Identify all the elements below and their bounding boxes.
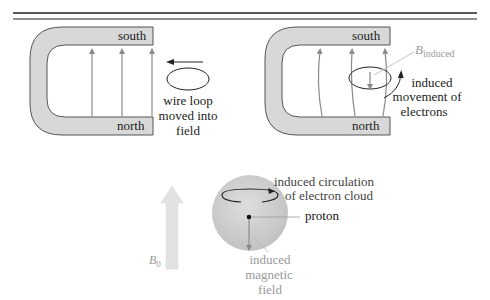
svg-text:of electron cloud: of electron cloud — [285, 188, 374, 203]
pole-north-right: north — [352, 118, 380, 133]
pole-south-left: south — [118, 28, 147, 43]
top-rule — [13, 13, 477, 19]
svg-text:field: field — [176, 123, 200, 138]
svg-text:induced: induced — [249, 252, 291, 267]
wire-loop — [167, 68, 209, 90]
b-induced-leader — [374, 52, 414, 75]
svg-text:electrons: electrons — [401, 104, 448, 119]
svg-text:field: field — [258, 282, 282, 297]
b-induced-label: Binduced — [415, 42, 455, 59]
diagram-canvas: south north wire loop moved into field s… — [0, 0, 490, 300]
pole-south-right: south — [352, 28, 381, 43]
pole-north-left: north — [117, 118, 145, 133]
svg-text:wire loop: wire loop — [163, 93, 212, 108]
movement-caption: induced movement of electrons — [393, 75, 463, 119]
b0-arrow-icon — [161, 186, 183, 269]
field-lines-left — [92, 51, 152, 116]
loop-caption: wire loop moved into field — [159, 93, 218, 138]
svg-text:movement of: movement of — [393, 89, 463, 104]
circulation-caption: induced circulation of electron cloud — [274, 174, 374, 203]
svg-text:induced circulation: induced circulation — [274, 174, 374, 189]
field-caption: induced magnetic field — [245, 252, 293, 297]
proton-dot — [247, 215, 252, 220]
proton-label: proton — [305, 208, 339, 223]
svg-text:magnetic: magnetic — [245, 267, 293, 282]
svg-text:induced: induced — [411, 75, 453, 90]
b0-label: B0 — [149, 253, 161, 269]
svg-text:moved into: moved into — [159, 108, 218, 123]
